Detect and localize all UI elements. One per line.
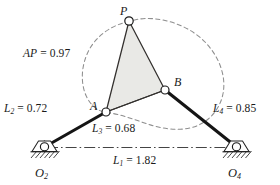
pivot-joint-o4 [232, 143, 240, 151]
pivot-joint-b [161, 86, 169, 94]
label-L2-value: 0.72 [27, 102, 48, 114]
label-o2-subscript: 2 [44, 172, 48, 181]
pivot-joint-a [102, 108, 110, 116]
label-L3-length: L3 = 0.68 [92, 123, 135, 136]
label-point-o4: O4 [228, 167, 241, 181]
label-point-p: P [120, 5, 127, 17]
label-point-b: B [174, 76, 181, 88]
label-AP-distance: AP = 0.97 [23, 48, 70, 60]
label-o4-subscript: 4 [237, 172, 241, 181]
label-L4-value: 0.85 [236, 102, 257, 114]
coupler-point-p [125, 17, 133, 25]
label-L3-value: 0.68 [115, 122, 136, 134]
label-L2-length: L2 = 0.72 [4, 103, 47, 116]
label-L1-length: L1 = 1.82 [113, 155, 156, 168]
label-L1-value: 1.82 [136, 154, 157, 166]
label-AP-base: AP [23, 47, 37, 59]
link-L4-rocker [165, 90, 237, 147]
label-o4-base: O [228, 166, 237, 180]
ground-support-o2 [31, 141, 60, 158]
four-bar-linkage-figure: AP = 0.97 L2 = 0.72 L4 = 0.85 L3 = 0.68 … [0, 0, 280, 185]
coupler-triangle-shaded [106, 21, 165, 112]
pivot-joint-o2 [40, 143, 48, 151]
label-point-a: A [90, 100, 97, 112]
label-L4-length: L4 = 0.85 [213, 103, 256, 116]
label-o2-base: O [35, 166, 44, 180]
label-AP-value: 0.97 [50, 47, 71, 59]
ground-support-o4 [223, 141, 252, 158]
label-point-o2: O2 [35, 167, 48, 181]
